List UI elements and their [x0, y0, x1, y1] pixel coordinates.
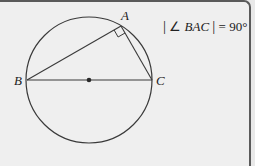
- angle-name: BAC: [185, 19, 210, 34]
- angle-value: = 90°: [219, 19, 248, 34]
- chord-ac: [121, 26, 152, 80]
- chord-ba: [27, 26, 121, 80]
- label-a: A: [120, 8, 129, 23]
- angle-symbol: ∠: [169, 19, 181, 34]
- label-b: B: [14, 73, 22, 88]
- abs-bar-right: |: [212, 18, 215, 34]
- center-point: [87, 78, 92, 83]
- abs-bar-left: |: [163, 18, 166, 34]
- label-c: C: [156, 73, 165, 88]
- circle-diagram: A B C | ∠ BAC | = 90°: [0, 0, 255, 166]
- angle-annotation: | ∠ BAC | = 90°: [163, 18, 247, 34]
